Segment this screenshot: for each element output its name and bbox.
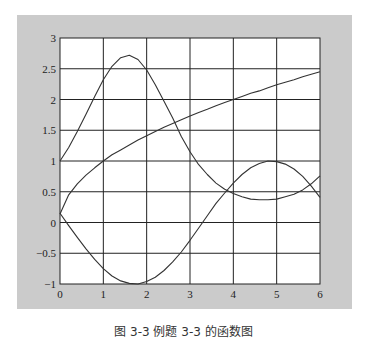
y-tick-label: 1	[51, 155, 57, 167]
x-tick-label: 1	[101, 288, 107, 300]
y-tick-label: −0.5	[36, 247, 56, 259]
y-tick-label: 1.5	[42, 124, 56, 136]
figure-caption: 图 3-3 例题 3-3 的函数图	[0, 322, 367, 339]
y-tick-label: −1	[44, 278, 56, 290]
y-tick-label: 3	[51, 32, 57, 44]
x-tick-label: 0	[57, 288, 63, 300]
x-axis-ticks: 0123456	[57, 288, 323, 300]
y-tick-label: 0	[51, 217, 57, 229]
y-tick-label: 0.5	[42, 186, 56, 198]
x-tick-label: 4	[231, 288, 237, 300]
y-tick-label: 2	[51, 94, 57, 106]
x-tick-label: 5	[274, 288, 280, 300]
y-tick-label: 2.5	[42, 63, 56, 75]
x-tick-label: 2	[144, 288, 150, 300]
y-axis-ticks: −1−0.500.511.522.53	[36, 32, 56, 290]
x-tick-label: 6	[317, 288, 323, 300]
x-tick-label: 3	[187, 288, 193, 300]
